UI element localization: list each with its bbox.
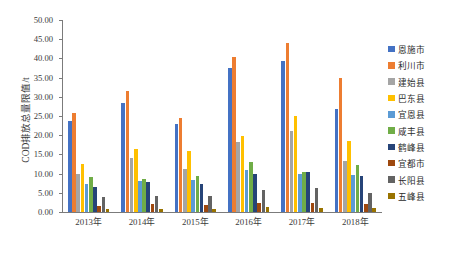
bar [142,179,146,212]
bar [232,57,236,212]
bar [196,176,200,212]
legend-item[interactable]: 巴东县 [388,90,452,106]
legend-swatch-icon [388,176,395,183]
y-axis-tick-label: 45.00 [34,34,53,44]
bar [335,109,339,212]
bar [364,204,368,212]
legend-item[interactable]: 宜都市 [388,155,452,171]
bar [228,68,232,212]
x-axis-labels: 2013年2014年2015年2016年2017年2018年 [62,215,382,228]
bar [175,124,179,212]
bar [200,184,204,212]
bar [249,162,253,212]
bar [76,174,80,212]
y-axis-labels: 50.0045.0040.0035.0030.0025.0020.0015.00… [0,0,62,213]
bar [306,172,310,212]
bar [102,197,106,212]
legend-swatch-icon [388,160,395,167]
legend-swatch-icon [388,62,395,69]
legend-item[interactable]: 咸丰县 [388,122,452,138]
legend-item-label: 宜都市 [398,157,425,169]
bar [85,184,89,212]
chart-legend: 恩施市利川市建始县巴东县宜恩县咸丰县鹤峰县宜都市长阳县五峰县 [388,41,452,204]
bar [179,118,183,212]
bar [351,175,355,212]
bar [245,170,249,212]
legend-item[interactable]: 长阳县 [388,171,452,187]
bar [257,203,261,212]
bar [130,158,134,212]
bar [294,116,298,212]
bar [343,161,347,212]
bar-group [222,20,275,212]
y-axis-tick-label: 15.00 [34,149,53,159]
bar-group [169,20,222,212]
bar-group [115,20,168,212]
bar [290,131,294,212]
bar [155,196,159,212]
bar [134,149,138,212]
legend-swatch-icon [388,111,395,118]
y-axis-tick-label: 20.00 [34,130,53,140]
legend-item-label: 恩施市 [398,43,425,55]
bar [266,207,270,212]
y-axis-tick-label: 30.00 [34,92,53,102]
legend-item[interactable]: 恩施市 [388,41,452,57]
bar [339,78,343,212]
y-axis-tick-label: 10.00 [34,169,53,179]
bar [281,61,285,212]
legend-item-label: 宜恩县 [398,108,425,120]
y-axis-tick-label: 40.00 [34,53,53,63]
legend-item[interactable]: 鹤峰县 [388,139,452,155]
bar [241,136,245,212]
bar [253,174,257,212]
legend-item-label: 巴东县 [398,92,425,104]
bar [360,176,364,212]
bar-groups [62,20,382,212]
legend-swatch-icon [388,95,395,102]
bar [106,209,110,212]
legend-item[interactable]: 建始县 [388,74,452,90]
bar [68,121,72,212]
legend-item[interactable]: 宜恩县 [388,106,452,122]
bar [121,103,125,212]
x-axis-tick-label: 2013年 [62,215,115,228]
bar [212,209,216,212]
bar [236,142,240,212]
legend-swatch-icon [388,127,395,134]
bar [183,169,187,212]
bar [81,164,85,212]
bar [208,196,212,212]
bar [315,188,319,212]
x-axis-tick-label: 2015年 [169,215,222,228]
legend-item-label: 长阳县 [398,174,425,186]
bar [146,182,150,212]
legend-item-label: 利川市 [398,59,425,71]
bar [191,180,195,212]
y-axis-tick-label: 35.00 [34,73,53,83]
y-axis-tick-label: 50.00 [34,15,53,25]
legend-swatch-icon [388,193,395,200]
x-axis-tick-label: 2014年 [115,215,168,228]
bar-chart: COD排放总量限值/t 50.0045.0040.0035.0030.0025.… [0,0,452,254]
bar [159,209,163,212]
legend-item-label: 咸丰县 [398,125,425,137]
bar [93,187,97,212]
bar [286,43,290,212]
legend-swatch-icon [388,46,395,53]
bar-group [329,20,382,212]
bar [368,193,372,212]
legend-item-label: 五峰县 [398,190,425,202]
legend-item[interactable]: 利川市 [388,57,452,73]
bar [187,151,191,212]
bar [262,190,266,212]
bar [138,181,142,212]
bar [97,206,101,212]
x-axis-tick-label: 2018年 [329,215,382,228]
bar [151,204,155,212]
bar [302,172,306,212]
x-axis-tick-label: 2016年 [222,215,275,228]
bar [347,141,351,212]
y-axis-tick-label: 25.00 [34,111,53,121]
legend-item[interactable]: 五峰县 [388,188,452,204]
